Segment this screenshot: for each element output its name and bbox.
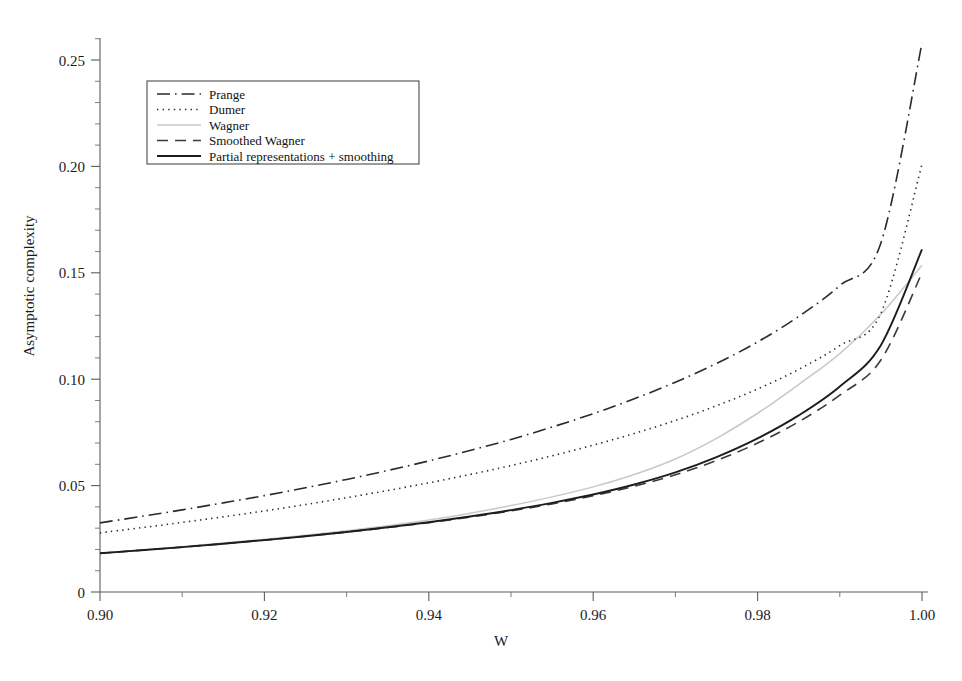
x-tick-label: 0.92 (251, 607, 277, 623)
x-tick-label: 0.94 (416, 607, 443, 623)
x-axis: 0.900.920.940.960.981.00 (87, 592, 935, 623)
y-axis: 00.050.100.150.200.25 (59, 38, 100, 601)
y-tick-label: 0.25 (59, 53, 85, 69)
legend-label-1: Prange (209, 87, 245, 102)
chart-canvas: 00.050.100.150.200.25 0.900.920.940.960.… (0, 0, 962, 681)
y-tick-label: 0.10 (59, 372, 85, 388)
series-line (100, 273, 922, 553)
x-tick-label: 0.98 (744, 607, 770, 623)
series-line (100, 249, 922, 553)
legend-label-3: Wagner (209, 118, 250, 133)
legend-label-2: Dumer (209, 102, 246, 117)
legend-label-5: Partial representations + smoothing (209, 149, 394, 164)
legend-label-4: Smoothed Wagner (209, 133, 306, 148)
chart-legend: PrangeDumerWagnerSmoothed WagnerPartial … (147, 81, 419, 164)
y-axis-title: Asymptotic complexity (21, 215, 37, 357)
chart-figure: 00.050.100.150.200.25 0.900.920.940.960.… (0, 0, 962, 681)
x-tick-label: 0.96 (580, 607, 607, 623)
y-tick-label: 0.20 (59, 159, 85, 175)
y-tick-label: 0 (78, 585, 86, 601)
x-axis-title: W (494, 633, 509, 649)
x-tick-label: 0.90 (87, 607, 113, 623)
y-tick-label: 0.05 (59, 478, 85, 494)
x-tick-label: 1.00 (909, 607, 935, 623)
y-tick-label: 0.15 (59, 265, 85, 281)
series-line (100, 164, 922, 533)
axis-titles: W Asymptotic complexity (21, 215, 509, 649)
